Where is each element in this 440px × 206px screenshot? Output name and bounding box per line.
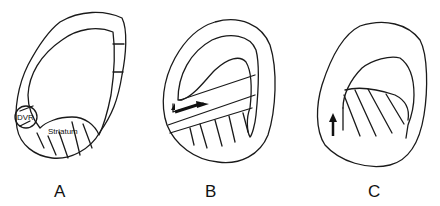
panel-c-inner-outline: [343, 57, 414, 138]
panel-label-c: C: [368, 182, 380, 201]
panel-c-outer-outline: [317, 22, 426, 166]
panel-c-hatching: [343, 89, 404, 136]
panel-a: DVR Striatum A: [15, 12, 126, 201]
striatum-label: Striatum: [48, 127, 78, 136]
panel-b-band-line-1: [180, 75, 255, 100]
panel-b-inner-loop: [178, 36, 258, 137]
arrow-icon: [171, 101, 209, 112]
panel-a-inner-outline: [28, 29, 114, 135]
up-arrow-icon: [329, 113, 337, 136]
diagram: DVR Striatum A B: [0, 0, 440, 206]
panel-label-b: B: [205, 182, 216, 201]
panel-label-a: A: [54, 182, 66, 201]
panel-b: B: [163, 20, 275, 201]
panel-c: C: [317, 22, 426, 201]
dvr-label: DVR: [17, 113, 34, 122]
